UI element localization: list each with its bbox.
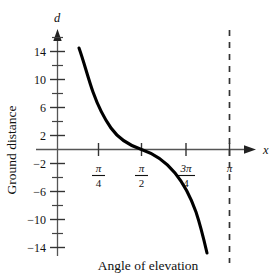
y-tick-label-neg10: −10 [27, 213, 46, 227]
x-tick-label-3pi-over-4: 3π 4 [177, 162, 195, 189]
x-axis-variable-label: x [262, 143, 269, 157]
x-tick-denominator-1: 4 [96, 177, 102, 189]
y-tick-label-6: 6 [40, 101, 46, 115]
x-axis-arrowhead [244, 145, 256, 154]
y-tick-label-10: 10 [34, 73, 46, 87]
x-tick-denominator-2: 2 [139, 177, 145, 189]
cotangent-graph-figure: 14 10 6 2 −2 −6 −10 −14 π 4 π [0, 0, 276, 275]
y-axis [53, 29, 61, 256]
y-tick-label-neg6: −6 [33, 185, 46, 199]
y-tick-label-14: 14 [34, 45, 46, 59]
x-axis-title: Angle of elevation [98, 258, 199, 273]
x-tick-label-pi-over-2: π 2 [135, 162, 148, 189]
y-axis-variable-label: d [54, 11, 61, 25]
x-tick-numerator-3: 3π [179, 162, 192, 174]
graph-canvas: 14 10 6 2 −2 −6 −10 −14 π 4 π [0, 0, 276, 275]
x-tick-label-pi-over-4: π 4 [92, 162, 105, 189]
x-tick-numerator-1: π [96, 162, 102, 174]
y-tick-label-neg2: −2 [33, 157, 46, 171]
x-axis-tick-labels: π 4 π 2 3π 4 π [92, 162, 233, 189]
y-axis-title: Ground distance [4, 106, 19, 195]
x-tick-numerator-2: π [139, 162, 145, 174]
y-tick-label-neg14: −14 [27, 241, 46, 255]
y-tick-label-2: 2 [40, 129, 46, 143]
y-axis-arrowhead [53, 29, 61, 41]
